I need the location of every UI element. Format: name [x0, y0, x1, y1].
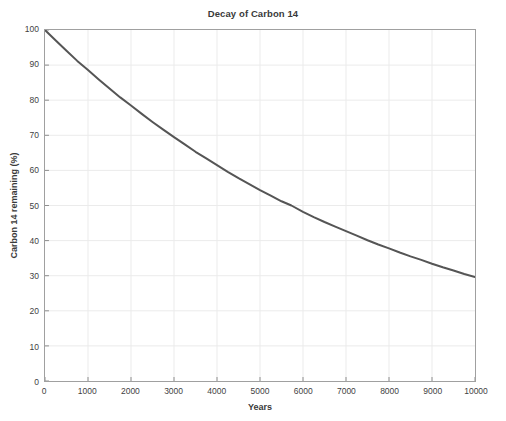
x-tick-label: 8000 [380, 386, 399, 396]
y-tick-label: 60 [30, 165, 39, 175]
x-tick-label: 1000 [78, 386, 97, 396]
x-tick-label: 0 [42, 386, 47, 396]
y-tick-label: 30 [30, 271, 39, 281]
x-tick-label: 4000 [207, 386, 226, 396]
x-tick-label: 10000 [464, 386, 488, 396]
y-tick-label: 50 [30, 201, 39, 211]
chart-figure: Decay of Carbon 14 010203040506070809010… [0, 0, 506, 421]
y-tick-label: 0 [34, 377, 39, 387]
plot-area [44, 29, 476, 382]
y-tick-label: 40 [30, 236, 39, 246]
x-axis-title: Years [44, 402, 476, 412]
y-tick-label: 90 [30, 59, 39, 69]
decay-curve [45, 30, 475, 381]
x-tick-label: 6000 [294, 386, 313, 396]
y-tick-label: 100 [25, 24, 39, 34]
y-axis-title: Carbon 14 remaining (%) [9, 29, 25, 382]
y-tick-label: 20 [30, 306, 39, 316]
y-tick-label: 80 [30, 95, 39, 105]
y-tick-label: 10 [30, 342, 39, 352]
x-tick-label: 7000 [337, 386, 356, 396]
x-axis-tick-labels: 0100020003000400050006000700080009000100… [44, 386, 476, 400]
x-tick-label: 3000 [164, 386, 183, 396]
x-tick-label: 5000 [251, 386, 270, 396]
y-tick-label: 70 [30, 130, 39, 140]
x-tick-label: 2000 [121, 386, 140, 396]
chart-title: Decay of Carbon 14 [0, 8, 506, 19]
x-tick-label: 9000 [423, 386, 442, 396]
